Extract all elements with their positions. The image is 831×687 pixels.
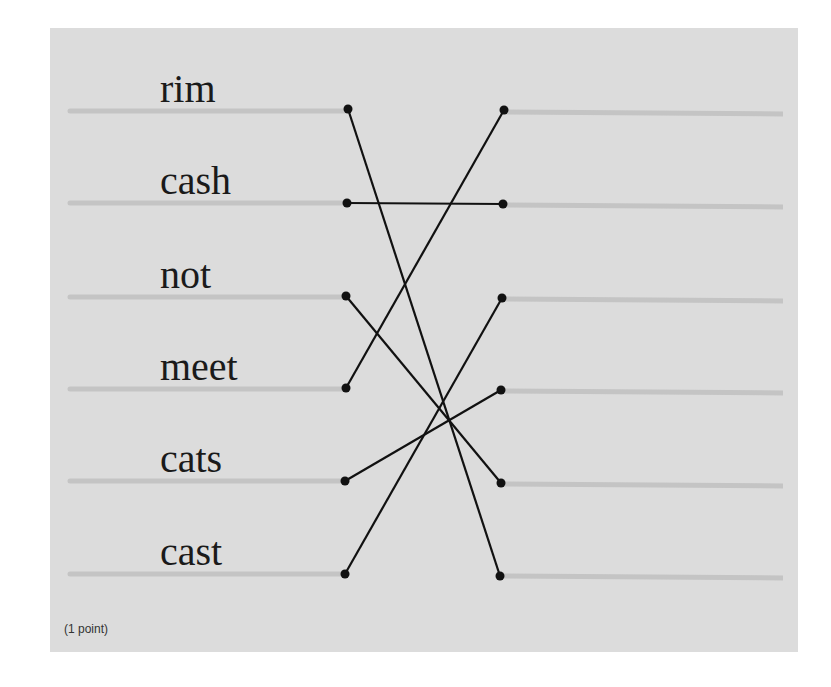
- points-label: (1 point): [64, 622, 108, 636]
- connector-lines: [345, 109, 504, 576]
- left-item-label-meet: meet: [160, 347, 238, 387]
- left-endpoint-cats[interactable]: [341, 477, 350, 486]
- connector-cash-to-2[interactable]: [347, 203, 503, 204]
- connector-not-to-5[interactable]: [346, 296, 501, 483]
- left-item-label-cash: cash: [160, 161, 231, 201]
- right-endpoint-6[interactable]: [496, 572, 505, 581]
- right-guide-line-5: [503, 484, 783, 486]
- right-endpoint-5[interactable]: [497, 479, 506, 488]
- left-item-label-cast: cast: [160, 532, 222, 572]
- left-endpoint-cash[interactable]: [343, 199, 352, 208]
- left-endpoint-rim[interactable]: [344, 105, 353, 114]
- right-guide-line-1: [503, 112, 783, 114]
- right-endpoints: [496, 106, 509, 581]
- right-guide-lines: [503, 112, 783, 578]
- left-endpoints: [341, 105, 353, 579]
- right-endpoint-1[interactable]: [500, 106, 509, 115]
- right-guide-line-6: [503, 576, 783, 578]
- right-endpoint-3[interactable]: [498, 294, 507, 303]
- right-endpoint-4[interactable]: [497, 386, 506, 395]
- right-endpoint-2[interactable]: [499, 200, 508, 209]
- right-guide-line-4: [503, 391, 783, 393]
- left-endpoint-cast[interactable]: [341, 570, 350, 579]
- left-item-label-rim: rim: [160, 69, 216, 109]
- left-endpoint-not[interactable]: [342, 292, 351, 301]
- matching-diagram: [0, 0, 831, 687]
- right-guide-line-2: [503, 205, 783, 207]
- left-item-label-not: not: [160, 255, 211, 295]
- right-guide-line-3: [503, 299, 783, 301]
- left-endpoint-meet[interactable]: [342, 384, 351, 393]
- left-item-label-cats: cats: [160, 439, 222, 479]
